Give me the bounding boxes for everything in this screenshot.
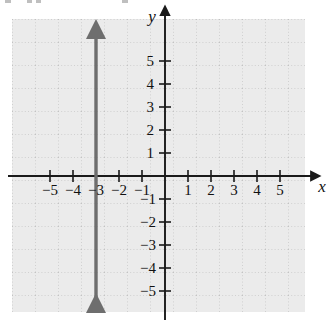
plot-area-background xyxy=(12,19,305,312)
x-tick-label: 1 xyxy=(184,182,192,198)
x-tick-label: 5 xyxy=(276,182,284,198)
x-tick-label: −2 xyxy=(111,182,127,198)
y-tick-label: −3 xyxy=(140,237,156,253)
coordinate-graph-figure: −5 −4 −3 −2 −1 1 2 3 4 5 5 4 3 2 1 −1 −2… xyxy=(0,0,334,332)
y-tick-label: 2 xyxy=(147,122,155,138)
x-tick-label: 2 xyxy=(207,182,215,198)
x-tick-label: −4 xyxy=(65,182,81,198)
y-tick-label: −1 xyxy=(140,191,156,207)
cropped-text-remnants xyxy=(5,0,128,3)
y-tick-label: −4 xyxy=(140,260,156,276)
y-tick-label: 1 xyxy=(147,145,155,161)
y-tick-label: −2 xyxy=(140,214,156,230)
x-tick-label: −5 xyxy=(42,182,58,198)
x-tick-label: −3 xyxy=(88,182,104,198)
y-tick-label: 4 xyxy=(147,76,155,92)
y-tick-label: 5 xyxy=(147,53,155,69)
y-axis-label: y xyxy=(146,7,156,26)
y-tick-label: 3 xyxy=(147,99,155,115)
x-tick-label: 3 xyxy=(230,182,238,198)
x-tick-label: 4 xyxy=(253,182,261,198)
x-axis-label: x xyxy=(317,177,326,196)
coordinate-plane-svg: −5 −4 −3 −2 −1 1 2 3 4 5 5 4 3 2 1 −1 −2… xyxy=(0,0,334,332)
y-tick-label: −5 xyxy=(140,283,156,299)
